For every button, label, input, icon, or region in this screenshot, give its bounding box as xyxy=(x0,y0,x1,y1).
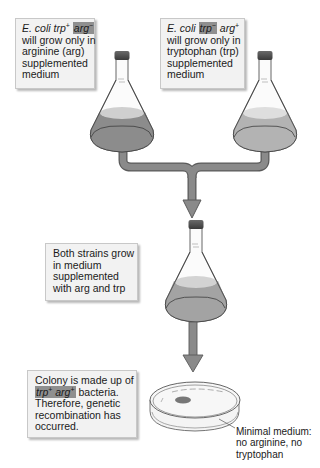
label-line: no arginine, no xyxy=(236,437,312,448)
box-text-line: with arg and trp xyxy=(53,283,132,295)
highlighted-mutation: arg− xyxy=(73,22,94,34)
flask-mixed xyxy=(165,220,226,322)
box-text-fragment: bacteria. xyxy=(76,386,119,398)
flask-strain-a xyxy=(90,51,153,152)
box-text-line: Both strains grow xyxy=(53,248,132,260)
strain-b-genotype: E. coli trp− arg+ xyxy=(167,23,239,35)
gene-sign: + xyxy=(235,22,239,29)
gene-trp: trp xyxy=(36,386,48,398)
box-text-line: occurred. xyxy=(35,421,131,433)
gene-arg: arg xyxy=(74,22,89,34)
box-text-line: medium xyxy=(22,69,89,81)
gene-trp: trp xyxy=(54,22,66,34)
gene-sign: + xyxy=(70,386,74,393)
gene-sign: + xyxy=(48,386,52,393)
gene-sign: − xyxy=(89,22,93,29)
species-name: E. coli xyxy=(167,22,196,34)
highlighted-mutation: trp− xyxy=(199,22,217,34)
colony xyxy=(175,397,191,404)
label-line: Minimal medium: xyxy=(236,426,312,437)
gene-arg: arg xyxy=(220,22,235,34)
gene-sign: − xyxy=(212,22,216,29)
petri-dish xyxy=(150,382,240,431)
gene-arg: arg xyxy=(55,386,70,398)
highlighted-recombinant: trp+ arg+ xyxy=(35,386,76,398)
mixed-strains-box: Both strains grow in medium supplemented… xyxy=(45,243,138,301)
label-line: tryptophan xyxy=(236,449,312,460)
gene-sign: + xyxy=(66,22,70,29)
plate-label: Minimal medium: no arginine, no tryptoph… xyxy=(236,426,312,460)
box-text-line: medium xyxy=(167,69,239,81)
strain-a-genotype: E. coli trp+ arg− xyxy=(22,23,89,35)
merge-arrow xyxy=(123,148,265,218)
strain-b-box: E. coli trp− arg+ will grow only in tryp… xyxy=(160,18,245,89)
species-name: E. coli xyxy=(22,22,51,34)
plate-arrow xyxy=(183,322,203,372)
strain-a-box: E. coli trp+ arg− will grow only in argi… xyxy=(15,18,95,89)
gene-trp: trp xyxy=(200,22,212,34)
result-box: Colony is made up of trp+ arg+ bacteria.… xyxy=(27,370,137,438)
